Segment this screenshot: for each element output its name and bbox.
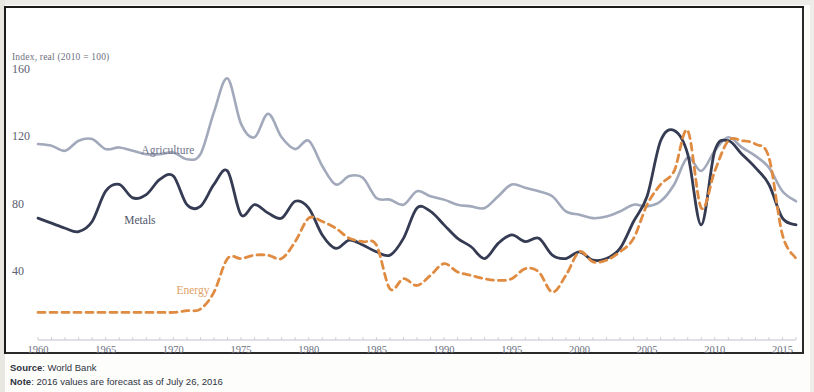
y-axis-caption: Index, real (2010 = 100) xyxy=(12,52,109,62)
x-tick-2000: 2000 xyxy=(569,345,590,356)
source-label: Source xyxy=(10,362,42,373)
y-tick-80: 80 xyxy=(12,198,24,210)
x-tick-2015: 2015 xyxy=(772,345,793,356)
x-tick-1995: 1995 xyxy=(501,345,522,356)
y-tick-160: 160 xyxy=(12,63,30,75)
x-tick-1985: 1985 xyxy=(366,345,387,356)
x-tick-1970: 1970 xyxy=(163,345,184,356)
y-tick-40: 40 xyxy=(12,265,24,277)
source-value: : World Bank xyxy=(42,362,96,373)
series-label-agriculture: Agriculture xyxy=(141,145,194,157)
y-tick-120: 120 xyxy=(12,130,30,142)
x-tick-1980: 1980 xyxy=(298,345,319,356)
note-line: Note: 2016 values are forecast as of Jul… xyxy=(10,376,710,389)
source-line: Source: World Bank xyxy=(10,362,710,375)
chart-figure: Index, real (2010 = 100) 1601208040 1960… xyxy=(0,0,814,392)
note-label: Note xyxy=(10,376,31,387)
x-tick-2010: 2010 xyxy=(704,345,725,356)
series-label-metals: Metals xyxy=(124,215,155,227)
series-label-energy: Energy xyxy=(176,285,209,297)
x-tick-1990: 1990 xyxy=(434,345,455,356)
x-tick-1965: 1965 xyxy=(95,345,116,356)
chart-plot-area xyxy=(0,0,814,392)
x-tick-1975: 1975 xyxy=(231,345,252,356)
note-value: : 2016 values are forecast as of July 26… xyxy=(31,376,223,387)
x-tick-2005: 2005 xyxy=(637,345,658,356)
x-tick-1960: 1960 xyxy=(28,345,49,356)
